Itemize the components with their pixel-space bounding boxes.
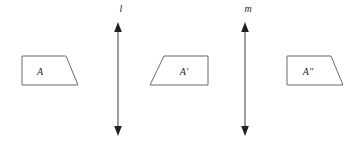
shape-a-prime-label: A′	[179, 66, 189, 77]
shape-a-double-prime-label: A″	[302, 66, 314, 77]
reflection-figure: A A′ A″ l m	[0, 0, 361, 145]
arrow-down-icon-l	[114, 126, 122, 136]
shape-a-double-prime-outline	[287, 56, 343, 85]
arrow-down-icon-m	[241, 126, 249, 136]
mirror-line-m-group: m	[241, 3, 251, 136]
figure-canvas: A A′ A″ l m	[0, 0, 361, 145]
mirror-line-l-label: l	[120, 3, 123, 14]
mirror-line-m-label: m	[244, 3, 251, 14]
shape-a-label: A	[36, 66, 44, 77]
arrow-up-icon-l	[114, 22, 122, 32]
shape-a-outline	[22, 56, 78, 85]
mirror-line-l-group: l	[114, 3, 122, 136]
arrow-up-icon-m	[241, 22, 249, 32]
